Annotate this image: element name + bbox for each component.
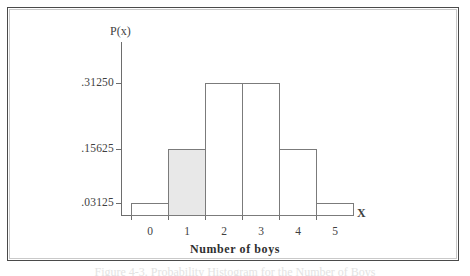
x-tick-mark: [242, 216, 243, 220]
histogram-bar: [242, 83, 280, 216]
x-tick-label: 0: [138, 225, 162, 237]
x-tick-mark: [205, 216, 206, 220]
y-tick-label: .15625: [81, 143, 114, 155]
x-tick-mark: [131, 216, 132, 220]
histogram-bar: [316, 203, 354, 216]
x-tick-label: 3: [249, 225, 273, 237]
x-axis-title: Number of boys: [0, 242, 470, 256]
y-tick-mark: [116, 203, 122, 204]
y-tick-mark: [116, 149, 122, 150]
plot-area: P(x) X .31250 .15625 .03125 0 1 2 3 4 5 …: [0, 0, 470, 276]
x-tick-mark: [279, 216, 280, 220]
y-axis-label: P(x): [110, 25, 131, 38]
probability-histogram-figure: P(x) X .31250 .15625 .03125 0 1 2 3 4 5 …: [0, 0, 470, 276]
x-tick-label: 1: [175, 225, 199, 237]
histogram-bar: [205, 83, 243, 216]
x-tick-label: 5: [323, 225, 347, 237]
y-tick-mark: [116, 83, 122, 84]
y-tick-label: .03125: [81, 197, 114, 209]
histogram-bar-highlighted: [168, 149, 206, 216]
x-axis-symbol-label: X: [357, 207, 366, 220]
x-tick-mark: [316, 216, 317, 220]
y-tick-label: .31250: [81, 77, 114, 89]
x-tick-label: 2: [212, 225, 236, 237]
clipped-caption-text: Figure 4-3. Probability Histogram for th…: [70, 266, 400, 276]
x-tick-mark: [168, 216, 169, 220]
histogram-bar: [131, 203, 169, 216]
x-tick-label: 4: [286, 225, 310, 237]
y-axis-line: [121, 42, 122, 216]
histogram-bar: [279, 149, 317, 216]
